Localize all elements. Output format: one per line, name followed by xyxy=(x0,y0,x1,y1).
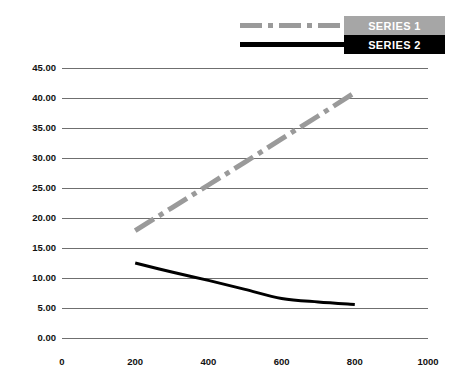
series-line-1 xyxy=(135,93,355,231)
chart-figure: SERIES 1 SERIES 2 0.005.0010.0015.0020.0… xyxy=(0,0,462,391)
y-axis-tick-labels: 0.005.0010.0015.0020.0025.0030.0035.0040… xyxy=(0,0,56,391)
x-axis-tick-label: 1000 xyxy=(406,357,450,367)
y-axis-tick-label: 30.00 xyxy=(4,153,56,163)
x-axis-tick-labels: 02004006008001000 xyxy=(0,357,462,371)
legend-swatch-series-1: SERIES 1 xyxy=(344,16,445,35)
x-axis-tick-label: 600 xyxy=(260,357,304,367)
x-axis-tick-label: 400 xyxy=(186,357,230,367)
y-axis-tick-label: 45.00 xyxy=(4,63,56,73)
plot-area xyxy=(62,68,428,338)
x-axis-tick-label: 800 xyxy=(333,357,377,367)
legend-swatch-series-2: SERIES 2 xyxy=(344,35,445,54)
x-axis-tick-label: 200 xyxy=(113,357,157,367)
y-axis-tick-label: 25.00 xyxy=(4,183,56,193)
y-axis-tick-label: 15.00 xyxy=(4,243,56,253)
y-axis-tick-label: 35.00 xyxy=(4,123,56,133)
legend-label-series-1: SERIES 1 xyxy=(368,20,421,32)
series-lines xyxy=(62,68,428,338)
legend-entry-series-2: SERIES 2 xyxy=(240,35,445,54)
legend-entry-series-1: SERIES 1 xyxy=(240,16,445,35)
x-axis-tick-label: 0 xyxy=(40,357,84,367)
legend-label-series-2: SERIES 2 xyxy=(368,39,421,51)
y-axis-tick-label: 20.00 xyxy=(4,213,56,223)
y-axis-tick-label: 0.00 xyxy=(4,333,56,343)
chart-legend: SERIES 1 SERIES 2 xyxy=(240,16,445,58)
y-axis-tick-label: 5.00 xyxy=(4,303,56,313)
series-line-2 xyxy=(135,263,355,304)
y-axis-tick-label: 40.00 xyxy=(4,93,56,103)
y-axis-tick-label: 10.00 xyxy=(4,273,56,283)
gridline xyxy=(62,338,428,339)
